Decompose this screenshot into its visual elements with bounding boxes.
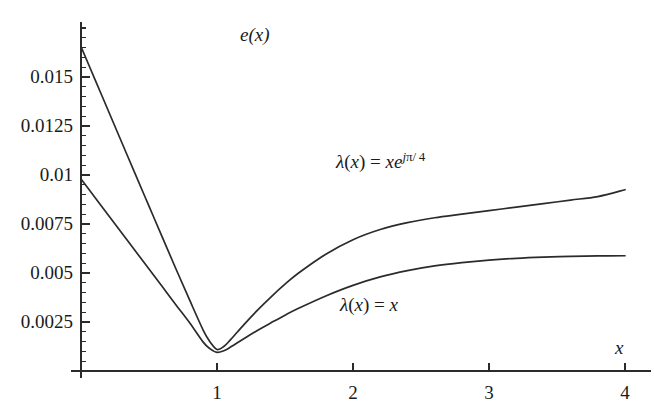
y-tick-label: 0.0075 [21,214,73,233]
x-tick-label: 3 [469,383,509,402]
x-tick-label: 1 [197,383,237,402]
y-tick-label: 0.0125 [21,116,73,135]
y-tick-label: 0.01 [40,165,73,184]
y-tick-label: 0.0025 [21,312,73,331]
x-tick-label: 4 [605,383,645,402]
curve-series-1 [81,179,625,353]
y-tick-label: 0.005 [30,263,73,282]
tick-marks [81,28,625,371]
x-axis-label: x [615,338,623,357]
plot-area [0,0,654,420]
y-axis-label: e(x) [240,25,270,44]
chart-figure: 0.00250.0050.00750.010.01250.015 1234 e(… [0,0,654,420]
series-label-lambda-real: λ(x) = x [340,295,398,314]
x-tick-label: 2 [333,383,373,402]
y-tick-label: 0.015 [30,67,73,86]
series-label-lambda-complex: λ(x) = xejπ/ 4 [336,152,425,171]
